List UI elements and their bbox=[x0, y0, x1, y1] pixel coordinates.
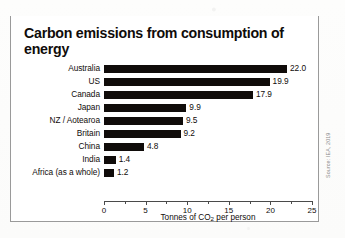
bar-track: 1.4 bbox=[104, 153, 320, 166]
bar-row: Australia22.0 bbox=[11, 62, 320, 75]
bar bbox=[104, 91, 253, 99]
bar-row: China4.8 bbox=[11, 140, 320, 153]
source-credit: Source: IEA, 2019 bbox=[325, 126, 331, 178]
bar bbox=[104, 130, 181, 138]
bar-value-label: 9.5 bbox=[186, 116, 197, 125]
bar-value-label: 9.2 bbox=[184, 129, 195, 138]
x-axis-title-subscript: 2 bbox=[211, 215, 214, 222]
x-axis-tick-minor bbox=[166, 201, 167, 204]
x-axis-tick-major bbox=[270, 201, 271, 205]
bar-row: Africa (as a whole)1.2 bbox=[11, 166, 320, 179]
x-axis-tick-minor bbox=[250, 201, 251, 204]
bar bbox=[104, 78, 270, 86]
bar bbox=[104, 65, 287, 73]
bar-value-label: 9.9 bbox=[189, 103, 200, 112]
x-axis-tick-major bbox=[312, 201, 313, 205]
bar-row: US19.9 bbox=[11, 75, 320, 88]
bar-category-label: Africa (as a whole) bbox=[11, 168, 104, 176]
bar bbox=[104, 143, 144, 151]
chart-panel: Carbon emissions from consumption of ene… bbox=[10, 16, 319, 222]
bar bbox=[104, 169, 114, 177]
bar-category-label: Britain bbox=[11, 129, 104, 137]
bar-category-label: US bbox=[11, 77, 104, 85]
bar-track: 19.9 bbox=[104, 75, 320, 88]
bar-value-label: 1.2 bbox=[117, 168, 128, 177]
x-axis-tick-minor bbox=[208, 201, 209, 204]
bar-track: 17.9 bbox=[104, 88, 320, 101]
x-axis-tick-major bbox=[187, 201, 188, 205]
bar-value-label: 19.9 bbox=[273, 77, 289, 86]
x-axis-title-before: Tonnes of CO bbox=[161, 213, 211, 222]
x-axis-line: 0510152025 bbox=[104, 201, 312, 202]
bar-category-label: China bbox=[11, 142, 104, 150]
x-axis-tick-major bbox=[104, 201, 105, 205]
bar bbox=[104, 117, 183, 125]
x-axis-title: Tonnes of CO2 per person bbox=[104, 213, 312, 222]
bar-row: Canada17.9 bbox=[11, 88, 320, 101]
bar-track: 22.0 bbox=[104, 62, 320, 75]
bar-row: Britain9.2 bbox=[11, 127, 320, 140]
bar-category-label: Australia bbox=[11, 64, 104, 72]
bar-row: India1.4 bbox=[11, 153, 320, 166]
bar-track: 9.9 bbox=[104, 101, 320, 114]
bar-value-label: 1.4 bbox=[119, 155, 130, 164]
bar-category-label: India bbox=[11, 155, 104, 163]
x-axis-tick-major bbox=[146, 201, 147, 205]
bar-value-label: 4.8 bbox=[147, 142, 158, 151]
x-axis-title-after: per person bbox=[214, 213, 255, 222]
bar-category-label: NZ / Aotearoa bbox=[11, 116, 104, 124]
x-axis-tick-minor bbox=[291, 201, 292, 204]
bar-category-label: Canada bbox=[11, 90, 104, 98]
bar-category-label: Japan bbox=[11, 103, 104, 111]
chart-title: Carbon emissions from consumption of ene… bbox=[24, 25, 289, 58]
bar-row: NZ / Aotearoa9.5 bbox=[11, 114, 320, 127]
bar-track: 9.5 bbox=[104, 114, 320, 127]
bar-track: 1.2 bbox=[104, 166, 320, 179]
plot-area: Australia22.0US19.9Canada17.9Japan9.9NZ … bbox=[11, 62, 320, 202]
x-axis-tick-minor bbox=[125, 201, 126, 204]
x-axis-tick-major bbox=[229, 201, 230, 205]
bar-row: Japan9.9 bbox=[11, 101, 320, 114]
bar bbox=[104, 156, 116, 164]
bar-value-label: 17.9 bbox=[256, 90, 272, 99]
bar-track: 9.2 bbox=[104, 127, 320, 140]
bar bbox=[104, 104, 186, 112]
bar-value-label: 22.0 bbox=[290, 64, 306, 73]
bar-track: 4.8 bbox=[104, 140, 320, 153]
